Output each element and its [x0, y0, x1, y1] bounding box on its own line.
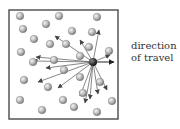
gas-particle — [93, 13, 101, 21]
moving-particle — [89, 58, 97, 66]
gas-particle — [105, 47, 113, 55]
gas-particle — [38, 106, 46, 114]
gas-particle — [70, 103, 78, 111]
gas-particle — [42, 20, 50, 28]
gas-particle — [30, 35, 38, 43]
gas-particle — [76, 52, 84, 60]
gas-particle — [16, 12, 24, 20]
gas-particle — [68, 27, 76, 35]
gas-particle — [96, 78, 104, 86]
gas-particle — [16, 96, 24, 104]
direction-label: direction of travel — [131, 40, 177, 64]
gas-particle — [88, 28, 96, 36]
particle-scattering-diagram — [0, 0, 180, 129]
label-line-2: of travel — [131, 52, 177, 64]
gas-particle — [85, 43, 93, 51]
gas-particle — [55, 12, 63, 20]
label-line-1: direction — [131, 40, 177, 52]
gas-particle — [62, 40, 70, 48]
gas-particle — [29, 58, 37, 66]
gas-particle — [60, 66, 68, 74]
gas-particle — [44, 83, 52, 91]
gas-particle — [20, 76, 28, 84]
gas-particle — [17, 48, 25, 56]
gas-particle — [46, 40, 54, 48]
gas-particle — [50, 56, 58, 64]
gas-particle — [76, 73, 84, 81]
gas-particle — [93, 108, 101, 116]
gas-particle — [108, 97, 116, 105]
gas-particle — [59, 96, 67, 104]
gas-particle — [79, 89, 87, 97]
gas-particle — [19, 25, 27, 33]
